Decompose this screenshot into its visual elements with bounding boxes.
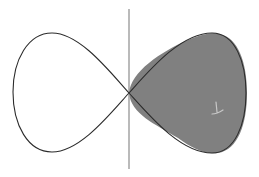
diagram-canvas: Figure-eight (lemniscate-like) curve cro… (0, 0, 259, 177)
shaded-right-lobe (129, 33, 247, 153)
figure-eight-diagram (0, 0, 259, 177)
